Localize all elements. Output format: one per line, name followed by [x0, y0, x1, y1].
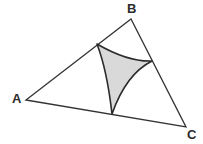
- vertex-label-b: B: [127, 2, 136, 15]
- geometry-figure: A B C: [0, 0, 203, 144]
- vertex-label-a: A: [12, 92, 21, 105]
- geometry-canvas: [0, 0, 203, 144]
- vertex-label-c: C: [187, 128, 196, 141]
- figure-background: [0, 0, 203, 144]
